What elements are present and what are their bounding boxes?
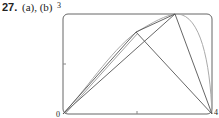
secant-lines-d <box>65 33 138 114</box>
plot <box>0 0 219 118</box>
secant-lines-a <box>63 14 212 114</box>
secant-lines-c <box>136 32 212 114</box>
plot-frame <box>63 14 212 114</box>
curve <box>63 14 212 114</box>
